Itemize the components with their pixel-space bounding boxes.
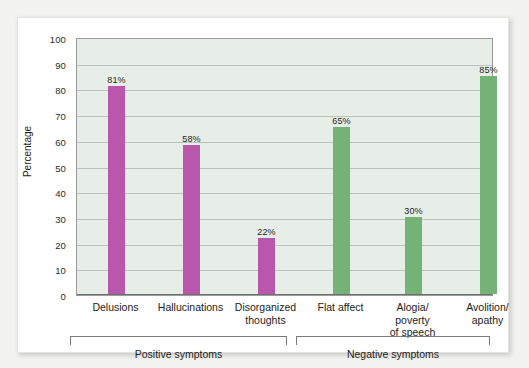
- y-tick-30: 30: [32, 213, 66, 224]
- chart-card: Percentage 100 90 80 70 60 50 40 30 20 1…: [17, 17, 509, 353]
- gridline-50: [77, 168, 492, 169]
- y-tick-0: 0: [32, 291, 66, 302]
- bar-value-hallucinations: 58%: [170, 134, 214, 144]
- bar-value-alogia: 30%: [392, 206, 436, 216]
- plot-area: 81% 58% 22% 65% 30% 85%: [76, 38, 493, 296]
- cat-label-avolition-line1: Avolition/: [440, 301, 529, 314]
- gridline-90: [77, 65, 492, 66]
- y-tick-70: 70: [32, 111, 66, 122]
- group-label-negative-symptoms: Negative symptoms: [296, 348, 490, 360]
- y-tick-10: 10: [32, 265, 66, 276]
- group-label-positive-symptoms: Positive symptoms: [70, 348, 287, 360]
- y-tick-60: 60: [32, 136, 66, 147]
- bar-disorganized-thoughts: [258, 238, 275, 295]
- gridline-80: [77, 90, 492, 91]
- gridline-10: [77, 270, 492, 271]
- y-tick-90: 90: [32, 59, 66, 70]
- bracket-negative-symptoms: [296, 336, 490, 345]
- cat-label-avolition: Avolition/ apathy: [440, 301, 529, 326]
- y-tick-100: 100: [32, 34, 66, 45]
- gridline-60: [77, 142, 492, 143]
- gridline-70: [77, 116, 492, 117]
- gridline-40: [77, 193, 492, 194]
- cat-label-disorganized-line2: thoughts: [218, 314, 314, 327]
- bar-value-flat-affect: 65%: [320, 116, 364, 126]
- cat-label-avolition-line2: apathy: [440, 314, 529, 327]
- bar-hallucinations: [183, 145, 200, 294]
- bar-avolition: [480, 76, 497, 295]
- y-axis-title: Percentage: [22, 112, 33, 192]
- figure-root: Percentage 100 90 80 70 60 50 40 30 20 1…: [0, 0, 529, 368]
- y-tick-50: 50: [32, 162, 66, 173]
- y-tick-40: 40: [32, 188, 66, 199]
- y-tick-80: 80: [32, 85, 66, 96]
- bar-alogia: [405, 217, 422, 294]
- bar-delusions: [108, 86, 125, 294]
- bracket-positive-symptoms: [70, 336, 287, 345]
- bar-value-avolition: 85%: [467, 65, 511, 75]
- bar-flat-affect: [333, 127, 350, 294]
- axis-baseline: [77, 294, 492, 295]
- bar-value-delusions: 81%: [95, 75, 139, 85]
- gridline-20: [77, 245, 492, 246]
- bar-value-disorganized-thoughts: 22%: [245, 227, 289, 237]
- y-tick-20: 20: [32, 239, 66, 250]
- gridline-30: [77, 219, 492, 220]
